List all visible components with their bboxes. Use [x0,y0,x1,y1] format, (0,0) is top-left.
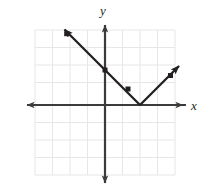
graph-figure: y x [0,0,210,193]
x-axis-label: x [191,99,197,112]
coordinate-plane-svg [0,0,210,193]
point-marker [126,87,131,92]
curve-right-ray [140,66,179,105]
curve-left-ray [65,30,141,106]
axes [27,25,186,183]
point-marker [168,73,173,78]
function-curve [65,30,180,106]
y-axis-label: y [100,4,106,17]
point-marker [64,31,69,36]
point-marker [103,68,108,73]
